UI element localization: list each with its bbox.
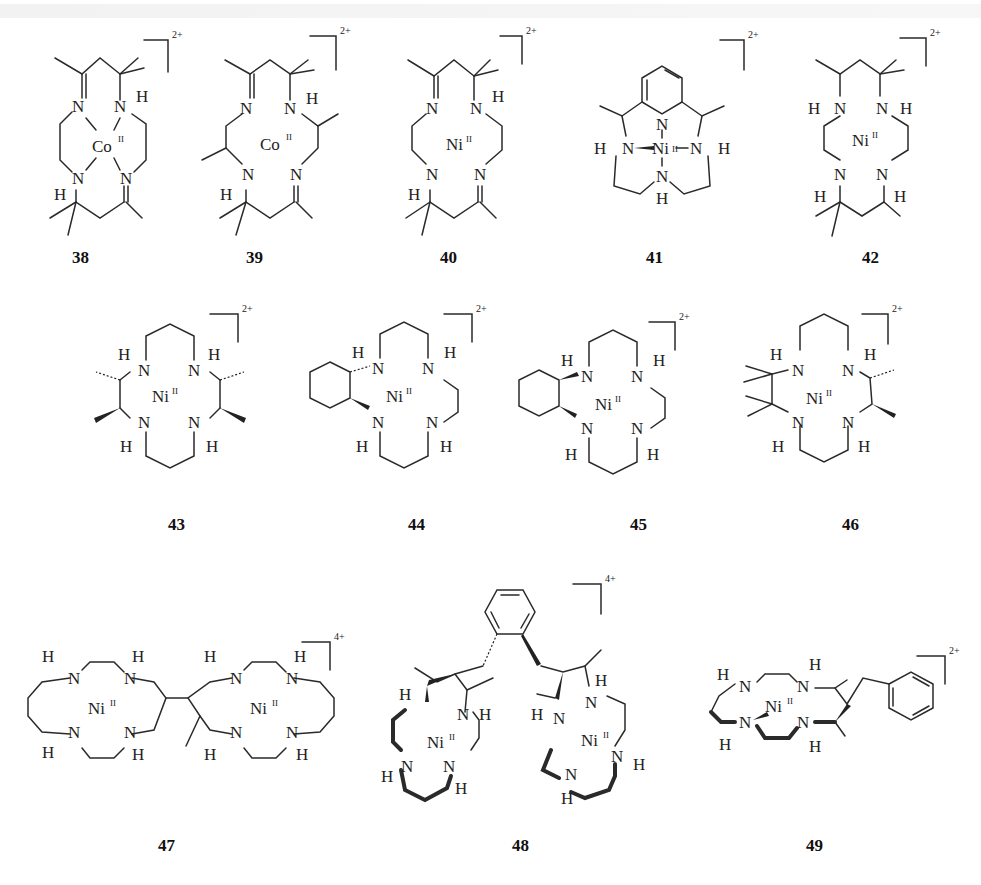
compound-38: N N H Co II N N H 2+ [20,30,190,230]
svg-text:II: II [286,132,292,142]
svg-text:Ni: Ni [250,699,267,718]
structure-45: H N N H Ni II N N H H 2+ [505,310,695,500]
svg-text:II: II [118,134,124,144]
svg-text:N: N [372,359,384,378]
svg-text:Ni: Ni [446,135,463,154]
svg-text:H: H [118,345,130,364]
svg-text:H: H [455,779,467,798]
svg-text:H: H [294,647,306,666]
svg-text:N: N [422,359,434,378]
svg-text:Ni: Ni [852,131,869,150]
svg-text:H: H [809,737,821,756]
compound-label-49: 49 [806,836,823,856]
svg-text:N: N [457,705,469,724]
svg-text:II: II [110,698,116,708]
svg-text:Ni: Ni [765,697,782,716]
svg-text:N: N [230,669,242,688]
svg-text:N: N [188,413,200,432]
compound-42: H N N H Ni II N N H H 2+ [800,30,980,230]
svg-text:2+: 2+ [476,303,487,314]
structure-41: N H N Ni II N H N H 2+ [570,30,770,230]
svg-text:H: H [561,789,573,808]
svg-text:II: II [672,144,678,154]
svg-text:Ni: Ni [595,395,612,414]
svg-text:N: N [690,139,702,158]
svg-text:II: II [172,386,178,396]
svg-text:H: H [479,705,491,724]
svg-text:Ni: Ni [806,389,823,408]
svg-text:H: H [132,647,144,666]
svg-text:II: II [406,386,412,396]
svg-text:H: H [858,437,870,456]
svg-text:2+: 2+ [949,645,960,656]
compound-39: N N H Co II N N H 2+ [190,30,360,230]
bleed-through-text [0,4,981,18]
svg-text:Ni: Ni [427,733,444,752]
structure-40: N N H Ni II N N H 2+ [388,30,558,230]
svg-text:N: N [470,99,482,118]
structure-46: H N N H Ni II N N H H 2+ [720,300,910,500]
svg-text:N: N [797,677,809,696]
svg-text:H: H [894,187,906,206]
svg-text:N: N [739,677,751,696]
svg-text:N: N [124,723,136,742]
svg-text:H: H [900,99,912,118]
svg-text:H: H [814,187,826,206]
structure-44: H N N H Ni II N N H H 2+ [300,310,490,500]
svg-text:H: H [120,437,132,456]
svg-text:N: N [138,413,150,432]
svg-text:H: H [296,745,308,764]
svg-text:H: H [352,343,364,362]
compound-label-42: 42 [862,248,879,268]
svg-text:2+: 2+ [172,29,183,40]
svg-text:2+: 2+ [526,25,537,36]
svg-text:Ni: Ni [88,699,105,718]
svg-text:Ni: Ni [652,139,669,158]
structure-48: H N H Ni II N H N H H N H N Ni II N H N … [375,580,675,810]
svg-text:2+: 2+ [748,29,759,40]
svg-text:II: II [466,134,472,144]
compound-label-45: 45 [630,515,647,535]
svg-text:N: N [631,367,643,386]
svg-text:N: N [622,139,634,158]
svg-text:N: N [426,165,438,184]
svg-text:H: H [381,767,393,786]
compound-label-44: 44 [408,515,425,535]
structure-47: H N N H Ni II N N H H H N N H Ni II N N … [20,650,360,770]
svg-text:N: N [114,97,126,116]
svg-text:H: H [647,445,659,464]
svg-text:N: N [188,361,200,380]
svg-text:H: H [408,185,420,204]
svg-text:II: II [826,388,832,398]
svg-text:N: N [72,169,84,188]
svg-text:2+: 2+ [679,311,690,322]
svg-text:N: N [581,367,593,386]
svg-text:N: N [876,165,888,184]
svg-text:H: H [204,745,216,764]
compound-46: H N N H Ni II N N H H 2+ [720,300,910,500]
svg-text:N: N [72,97,84,116]
structure-42: H N N H Ni II N N H H 2+ [800,30,980,230]
svg-text:II: II [272,698,278,708]
structure-38: N N H Co II N N H 2+ [20,30,190,230]
compound-label-43: 43 [168,515,185,535]
svg-text:N: N [426,99,438,118]
svg-text:N: N [426,413,438,432]
svg-text:H: H [653,351,665,370]
compound-label-48: 48 [512,836,529,856]
compound-45: H N N H Ni II N N H H 2+ [505,310,695,500]
compound-49: H N N H Ni II N N H H 2+ [695,660,981,790]
svg-text:H: H [306,89,318,108]
compound-41: N H N Ni II N H N H 2+ [570,30,770,230]
svg-text:H: H [444,343,456,362]
svg-text:4+: 4+ [334,631,345,642]
svg-text:H: H [204,647,216,666]
svg-text:H: H [440,437,452,456]
svg-text:N: N [68,669,80,688]
svg-text:N: N [631,419,643,438]
svg-text:N: N [242,165,254,184]
compound-label-47: 47 [158,836,175,856]
svg-text:N: N [286,723,298,742]
svg-text:H: H [561,351,573,370]
structure-43: H N N H Ni II N N H H 2+ [90,310,270,500]
